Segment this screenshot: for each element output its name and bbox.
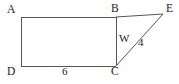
vertex-label-e: E bbox=[166, 3, 173, 14]
vertex-label-c: C bbox=[111, 66, 119, 77]
geometry-drawing bbox=[0, 0, 179, 84]
measure-label-bc: W bbox=[119, 33, 129, 44]
measure-label-ce: 4 bbox=[138, 37, 144, 48]
vertex-label-a: A bbox=[7, 4, 15, 15]
vertex-label-d: D bbox=[7, 66, 15, 77]
geometry-figure: A B E D C 6 W 4 bbox=[0, 0, 179, 84]
measure-label-dc: 6 bbox=[62, 66, 68, 77]
edge-BE bbox=[116, 14, 163, 17]
vertex-label-b: B bbox=[111, 3, 119, 14]
